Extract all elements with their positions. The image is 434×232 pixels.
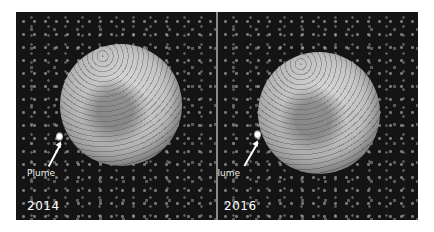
year-label: 2016 [224,199,257,213]
plume-label: Plume [218,168,240,178]
moon-disk [258,52,380,174]
panel-2016: Plume 2016 [218,12,418,220]
plume-label: Plume [27,168,55,178]
moon-disk [60,44,182,166]
panel-2014: Plume 2014 [16,12,216,220]
year-label: 2014 [27,199,60,213]
